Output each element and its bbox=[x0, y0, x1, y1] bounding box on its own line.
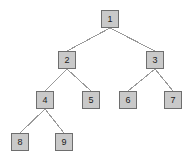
tree-node-label: 9 bbox=[61, 137, 66, 146]
tree-node-label: 2 bbox=[64, 55, 69, 64]
tree-edge bbox=[128, 69, 155, 91]
tree-node-2[interactable]: 2 bbox=[58, 51, 76, 69]
tree-edge bbox=[45, 69, 67, 91]
tree-node-label: 7 bbox=[170, 95, 175, 104]
tree-node-label: 5 bbox=[88, 95, 93, 104]
tree-node-3[interactable]: 3 bbox=[146, 51, 164, 69]
tree-node-5[interactable]: 5 bbox=[82, 91, 100, 109]
tree-edge bbox=[110, 28, 155, 51]
tree-diagram: 123456789 bbox=[0, 0, 196, 164]
tree-node-8[interactable]: 8 bbox=[11, 133, 29, 151]
tree-node-label: 3 bbox=[152, 55, 157, 64]
tree-node-9[interactable]: 9 bbox=[55, 133, 73, 151]
tree-node-6[interactable]: 6 bbox=[119, 91, 137, 109]
tree-edge bbox=[20, 109, 45, 133]
tree-node-1[interactable]: 1 bbox=[101, 10, 119, 28]
tree-edge bbox=[67, 69, 91, 91]
tree-node-label: 1 bbox=[107, 14, 112, 23]
tree-node-label: 6 bbox=[125, 95, 130, 104]
tree-node-label: 8 bbox=[17, 137, 22, 146]
tree-node-7[interactable]: 7 bbox=[164, 91, 182, 109]
tree-node-4[interactable]: 4 bbox=[36, 91, 54, 109]
tree-edge bbox=[45, 109, 64, 133]
tree-edge-layer bbox=[0, 0, 196, 164]
tree-node-label: 4 bbox=[42, 95, 47, 104]
tree-edge bbox=[155, 69, 173, 91]
tree-edge bbox=[67, 28, 110, 51]
